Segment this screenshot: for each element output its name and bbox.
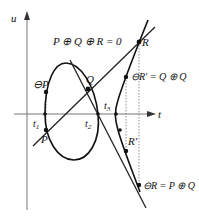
label-P: P: [40, 133, 48, 145]
tick-t1-label: t1: [33, 118, 39, 131]
label-Rprime: R′: [127, 135, 138, 147]
label-negP: ⊖P: [33, 78, 49, 90]
tick-t3-label: t3: [104, 100, 111, 113]
u-axis-arrow-icon: [24, 11, 30, 20]
point-branch-lower: [118, 128, 122, 132]
t-axis-arrow-icon: [147, 111, 156, 117]
point-negRprime: [124, 75, 128, 79]
point-P: [44, 128, 48, 132]
point-Q: [86, 87, 91, 92]
point-negR: [137, 183, 141, 187]
t-axis-label: t: [158, 108, 162, 120]
point-Rprime: [124, 149, 128, 153]
u-axis-label: u: [11, 12, 17, 24]
point-t2: [96, 112, 100, 116]
equation-label: P ⊕ Q ⊕ R = 0: [52, 35, 122, 47]
tick-t2-label: t2: [85, 118, 92, 131]
tangent-line-Q: [70, 60, 146, 208]
elliptic-curve-diagram: u t P ⊕ Q ⊕ R = 0 t1 t2 t3 P ⊖P Q R R′ ⊖…: [0, 0, 199, 217]
label-R: R: [141, 36, 149, 48]
label-negRprime: ⊖R′ = Q ⊕ Q: [131, 71, 187, 82]
label-Q: Q: [86, 73, 94, 85]
point-t3: [114, 112, 118, 116]
point-t1: [43, 112, 47, 116]
point-R: [137, 40, 142, 45]
label-negR: ⊖R = P ⊕ Q: [143, 180, 196, 191]
point-negP: [44, 90, 48, 94]
